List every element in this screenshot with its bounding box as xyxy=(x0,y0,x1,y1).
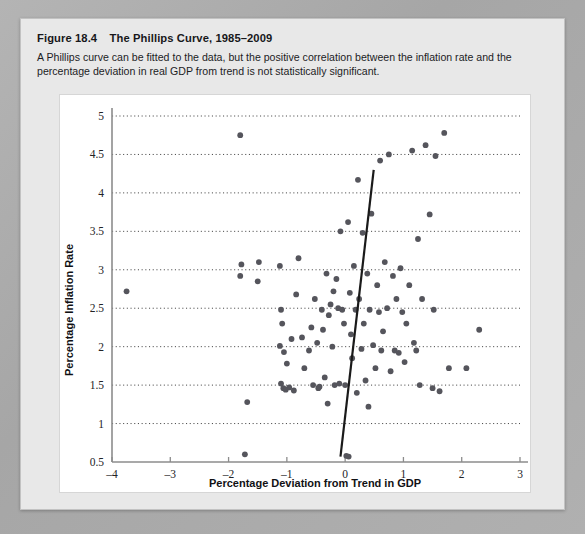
data-point xyxy=(390,273,396,279)
data-point xyxy=(417,382,423,388)
y-tick-label: 1 xyxy=(98,418,104,430)
data-point xyxy=(325,401,331,407)
x-tick-label: 2 xyxy=(459,468,465,480)
data-point xyxy=(476,327,482,333)
data-point xyxy=(242,451,248,457)
data-point xyxy=(289,336,295,342)
data-point xyxy=(433,153,439,159)
figure-card: Figure 18.4 The Phillips Curve, 1985–200… xyxy=(20,18,565,510)
x-tick-label: 3 xyxy=(517,468,523,480)
data-point xyxy=(354,390,360,396)
fit-line xyxy=(340,170,373,457)
data-point xyxy=(370,342,376,348)
gridlines xyxy=(112,116,520,424)
data-point xyxy=(361,321,367,327)
y-tick-label: 0.5 xyxy=(90,456,105,468)
data-point xyxy=(326,312,332,318)
data-point xyxy=(336,381,342,387)
data-point xyxy=(380,328,386,334)
data-point xyxy=(310,382,316,388)
data-point xyxy=(441,130,447,136)
data-point xyxy=(411,340,417,346)
data-point xyxy=(396,350,402,356)
data-point xyxy=(278,307,284,313)
data-point xyxy=(355,177,361,183)
data-point xyxy=(363,378,369,384)
axes xyxy=(112,108,528,462)
data-point xyxy=(301,365,307,371)
y-tick-label: 4 xyxy=(98,187,104,199)
data-point xyxy=(366,404,372,410)
plot-panel: –4–3–2–10123 0.511.522.533.544.55 Percen… xyxy=(59,94,531,493)
data-point xyxy=(427,212,433,218)
data-point xyxy=(359,346,365,352)
fitted-line xyxy=(340,170,373,457)
data-point xyxy=(423,142,429,148)
figure-page: Figure 18.4 The Phillips Curve, 1985–200… xyxy=(0,0,585,534)
data-point xyxy=(329,344,335,350)
data-point xyxy=(277,263,283,269)
data-point xyxy=(367,307,373,313)
data-point xyxy=(308,325,314,331)
data-point xyxy=(384,305,390,311)
data-point xyxy=(403,321,409,327)
y-tick-label: 1.5 xyxy=(90,379,105,391)
data-point xyxy=(374,282,380,288)
data-points xyxy=(124,130,482,460)
data-point xyxy=(124,288,130,294)
x-tick-label: –3 xyxy=(164,468,177,480)
data-point xyxy=(431,307,437,313)
figure-title: The Phillips Curve, 1985–2009 xyxy=(110,32,273,44)
data-point xyxy=(398,265,404,271)
data-point xyxy=(291,388,297,394)
data-point xyxy=(293,291,299,297)
y-tick-label: 5 xyxy=(98,110,104,122)
data-point xyxy=(312,296,318,302)
y-tick-label: 3 xyxy=(98,264,104,276)
data-point xyxy=(394,296,400,302)
data-point xyxy=(319,307,325,313)
data-point xyxy=(279,321,285,327)
data-point xyxy=(338,228,344,234)
data-point xyxy=(346,454,352,460)
data-point xyxy=(382,259,388,265)
figure-heading: Figure 18.4 The Phillips Curve, 1985–200… xyxy=(37,31,549,46)
data-point xyxy=(256,259,262,265)
data-point xyxy=(351,263,357,269)
y-tick-label: 2 xyxy=(98,341,104,353)
data-point xyxy=(331,288,337,294)
data-point xyxy=(373,365,379,371)
data-point xyxy=(399,309,405,315)
data-point xyxy=(322,375,328,381)
data-point xyxy=(296,255,302,261)
data-point xyxy=(255,278,261,284)
y-tick-label: 3.5 xyxy=(90,225,105,237)
y-tick-label: 4.5 xyxy=(90,148,105,160)
data-point xyxy=(284,361,290,367)
data-point xyxy=(277,343,283,349)
data-point xyxy=(324,271,330,277)
y-tick-label: 2.5 xyxy=(90,302,105,314)
scatter-plot: –4–3–2–10123 0.511.522.533.544.55 Percen… xyxy=(60,95,530,492)
data-point xyxy=(328,301,334,307)
data-point xyxy=(402,359,408,365)
x-axis-title: Percentage Deviation from Trend in GDP xyxy=(209,477,421,489)
data-point xyxy=(345,219,351,225)
data-point xyxy=(386,152,392,158)
data-point xyxy=(463,365,469,371)
figure-caption: Figure 18.4 The Phillips Curve, 1985–200… xyxy=(37,31,549,79)
figure-description: A Phillips curve can be fitted to the da… xyxy=(37,50,543,79)
data-point xyxy=(244,399,250,405)
data-point xyxy=(388,368,394,374)
data-point xyxy=(306,348,312,354)
data-point xyxy=(314,340,320,346)
data-point xyxy=(341,321,347,327)
data-point xyxy=(409,148,415,154)
data-point xyxy=(334,276,340,282)
data-point xyxy=(430,385,436,391)
data-point xyxy=(348,331,354,337)
data-point xyxy=(376,309,382,315)
data-point xyxy=(415,236,421,242)
data-point xyxy=(347,290,353,296)
y-tick-labels: 0.511.522.533.544.55 xyxy=(90,110,105,468)
